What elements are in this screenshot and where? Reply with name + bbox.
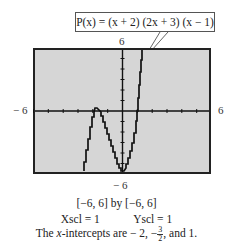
scale-caption: Xscl = 1 Yscl = 1 — [0, 212, 233, 226]
yscl-label: Yscl = 1 — [133, 213, 172, 225]
intercepts-suffix: , and 1. — [163, 227, 197, 239]
window-caption: [−6, 6] by [−6, 6] — [0, 196, 233, 210]
intercepts-text: -intercepts are − 2, − — [62, 227, 158, 239]
intercepts-prefix: The — [36, 227, 57, 239]
xscl-label: Xscl = 1 — [61, 213, 100, 225]
intercepts-caption: The x-intercepts are − 2, −32, and 1. — [0, 226, 233, 243]
